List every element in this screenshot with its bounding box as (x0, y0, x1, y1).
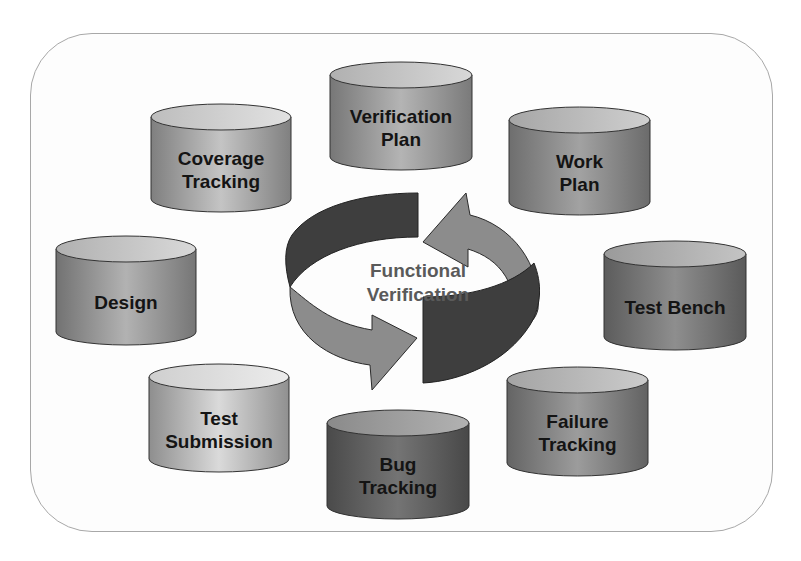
node-label: Test Submission (148, 393, 290, 467)
node-bug-tracking: Bug Tracking (326, 409, 470, 519)
node-label: Coverage Tracking (150, 133, 292, 207)
node-test-bench: Test Bench (603, 240, 747, 350)
node-test-submission: Test Submission (148, 363, 290, 473)
node-label: Test Bench (603, 270, 747, 344)
node-verification-plan: Verification Plan (329, 61, 473, 171)
node-label: Bug Tracking (326, 439, 470, 513)
node-design: Design (55, 235, 197, 345)
node-label: Verification Plan (329, 91, 473, 165)
node-coverage-tracking: Coverage Tracking (150, 103, 292, 213)
node-label: Design (55, 265, 197, 339)
center-label: Functional Verification (330, 259, 506, 307)
node-label: Failure Tracking (506, 396, 649, 470)
